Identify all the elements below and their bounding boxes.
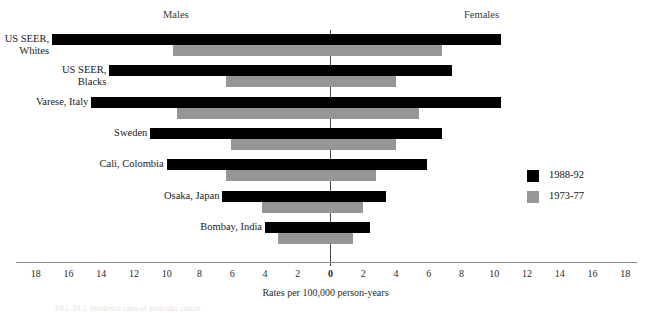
bar-row: Sweden <box>0 128 651 158</box>
bar-recent <box>222 191 386 202</box>
bar-recent <box>265 222 370 233</box>
bar-earlier <box>262 202 364 213</box>
bar-recent <box>150 128 442 139</box>
x-tick-label: 16 <box>581 268 605 279</box>
bar-row: US SEER, Blacks <box>0 65 651 95</box>
x-tick-label: 14 <box>89 268 113 279</box>
x-tick-label: 2 <box>286 268 310 279</box>
category-label: Varese, Italy <box>36 96 91 108</box>
x-axis-title: Rates per 100,000 person-years <box>0 287 651 298</box>
bar-row: US SEER, Whites <box>0 34 651 64</box>
bar-recent <box>91 97 501 108</box>
category-label: Cali, Colombia <box>100 158 167 170</box>
category-label: Sweden <box>114 127 150 139</box>
x-tick-label: 6 <box>417 268 441 279</box>
bar-recent <box>167 159 427 170</box>
bar-earlier <box>173 45 442 56</box>
bar-recent <box>109 65 451 76</box>
x-tick-label: 6 <box>220 268 244 279</box>
bar-row: Varese, Italy <box>0 97 651 127</box>
legend-label: 1973-77 <box>549 190 584 201</box>
x-tick-label: 14 <box>548 268 572 279</box>
figure-caption: FIG. 10.3. Incidence rates of testicular… <box>55 304 615 313</box>
x-tick-label: 18 <box>613 268 637 279</box>
bar-earlier <box>226 170 377 181</box>
x-tick-label: 8 <box>187 268 211 279</box>
bar-earlier <box>226 76 396 87</box>
diverging-bar-chart: Males Females US SEER, WhitesUS SEER, Bl… <box>0 0 651 313</box>
x-tick-label: 12 <box>122 268 146 279</box>
legend-swatch-black <box>527 170 539 182</box>
x-tick-label: 4 <box>253 268 277 279</box>
x-tick-label: 8 <box>450 268 474 279</box>
females-header-label: Females <box>464 9 499 20</box>
bar-earlier <box>177 108 419 119</box>
category-label: Bombay, India <box>200 221 265 233</box>
x-tick-label: 16 <box>56 268 80 279</box>
x-tick-label: 0 <box>319 268 343 279</box>
bar-earlier <box>278 233 353 244</box>
category-label: Osaka, Japan <box>164 190 222 202</box>
x-tick-label: 2 <box>351 268 375 279</box>
category-label: US SEER, Whites <box>5 33 52 56</box>
legend-label: 1988-92 <box>549 169 584 180</box>
x-tick-label: 10 <box>482 268 506 279</box>
x-tick-label: 10 <box>155 268 179 279</box>
plot-area: US SEER, WhitesUS SEER, BlacksVarese, It… <box>0 28 651 260</box>
x-tick-label: 12 <box>515 268 539 279</box>
bar-row: Bombay, India <box>0 222 651 252</box>
x-tick-label: 18 <box>24 268 48 279</box>
x-axis-line <box>16 262 637 263</box>
bar-earlier <box>231 139 396 150</box>
males-header-label: Males <box>163 9 189 20</box>
legend-swatch-gray <box>527 191 539 203</box>
bar-recent <box>52 34 501 45</box>
category-label: US SEER, Blacks <box>62 64 109 87</box>
x-tick-label: 4 <box>384 268 408 279</box>
